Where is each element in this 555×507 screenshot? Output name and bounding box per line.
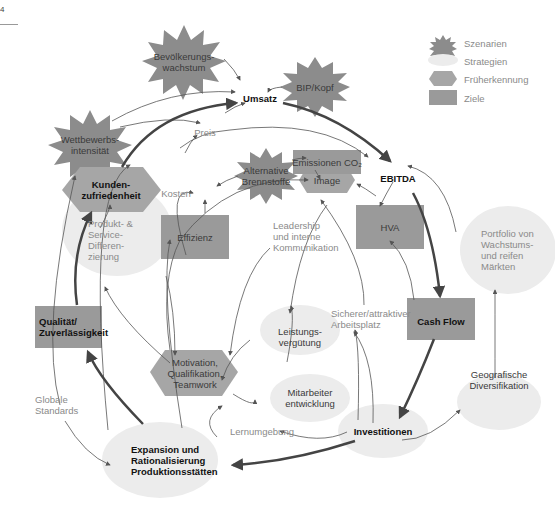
node-kundenzufriedenheit: Kunden- zufriedenheit — [81, 179, 140, 201]
node-wettbewerbsintensitaet: Wettbewerbs- intensität — [61, 134, 119, 156]
node-effizienz: Effizienz — [177, 232, 213, 243]
node-ebitda: EBITDA — [380, 173, 415, 184]
legend-label-szenarien: Szenarien — [464, 38, 507, 49]
node-qualitaet: Qualität/ Zuverlässigkeit — [39, 316, 108, 338]
node-motivation: Motivation, Qualifikation, Teamwork — [168, 357, 223, 390]
node-globale-standards: Globale Standards — [35, 394, 78, 416]
node-image: Image — [314, 175, 340, 186]
node-investitionen: Investitionen — [354, 426, 413, 437]
node-mitarbeiterentwicklung: Mitarbeiter entwicklung — [285, 387, 335, 409]
legend-label-strategien: Strategien — [464, 56, 507, 67]
legend — [428, 35, 458, 105]
node-hva: HVA — [381, 222, 400, 233]
legend-rect-icon — [429, 90, 457, 105]
node-cash-flow: Cash Flow — [417, 316, 465, 327]
node-portfolio: Portfolio von Wachstums- und reifen Märk… — [481, 228, 534, 272]
node-produkt-service: Produkt- & Service- Differen- zierung — [88, 218, 133, 262]
node-preis: Preis — [194, 127, 216, 138]
node-kosten: Kosten — [161, 188, 191, 199]
node-umsatz: Umsatz — [243, 93, 277, 104]
node-bip-kopf: BIP/Kopf — [296, 82, 334, 93]
legend-label-ziele: Ziele — [464, 93, 485, 104]
node-emissionen-co2: Emissionen CO₂ — [292, 157, 362, 168]
legend-ellipse-icon — [428, 54, 458, 66]
node-leistungsverguetung: Leistungs- vergütung — [278, 326, 322, 348]
node-leadership: Leadership und interne Kommunikation — [273, 220, 338, 253]
legend-label-frueherkennung: Früherkennung — [464, 74, 528, 85]
node-geografische-diversifikation: Geografische Diversifikation — [469, 369, 528, 391]
node-lernumgebung: Lernumgebung — [230, 426, 294, 437]
node-alternative-brennstoffe: Alternative Brennstoffe — [242, 165, 290, 187]
node-bevoelkerungswachstum: Bevölkerungs- wachstum — [154, 51, 215, 73]
legend-hexagon-icon — [429, 71, 457, 86]
node-sicherer-arbeitsplatz: Sicherer/attraktiver Arbeitsplatz — [331, 308, 411, 330]
node-expansion: Expansion und Rationalisierung Produktio… — [131, 444, 218, 477]
